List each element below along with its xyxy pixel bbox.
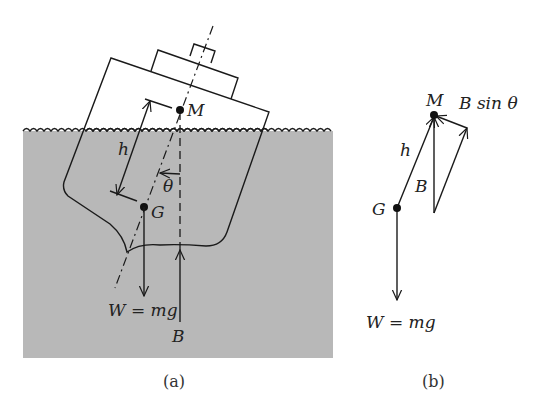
center-of-gravity-point-b (393, 204, 401, 212)
label-theta-a: θ (163, 176, 173, 196)
metacenter-point (176, 106, 184, 114)
b-sin-theta-arrow (436, 116, 467, 128)
ship-funnel (190, 44, 215, 63)
panel-a: M G h θ W = mg B (a) (23, 26, 333, 391)
caption-b: (b) (422, 372, 445, 391)
label-M-b: M (425, 90, 444, 110)
label-weight-a: W = mg (108, 300, 178, 320)
label-weight-b: W = mg (366, 312, 436, 332)
angle-arrow (160, 173, 180, 174)
label-G-a: G (151, 202, 165, 222)
label-h-a: h (118, 139, 129, 159)
panel-b: M B sin θ h B G W = mg (b) (366, 90, 518, 391)
label-G-b: G (372, 199, 386, 219)
label-h-b: h (400, 140, 411, 160)
label-M-a: M (186, 100, 205, 120)
label-B-a: B (171, 326, 185, 346)
label-B-b: B (414, 176, 428, 196)
buoyancy-tilted-b (434, 128, 467, 213)
caption-a: (a) (163, 372, 185, 391)
waterline-over-hull (86, 129, 268, 132)
metacenter-point-b (430, 111, 438, 119)
ship-stability-figure: M G h θ W = mg B (a) M B sin θ h B G W =… (0, 0, 544, 399)
label-B-sin-theta-b: B sin θ (458, 93, 518, 113)
